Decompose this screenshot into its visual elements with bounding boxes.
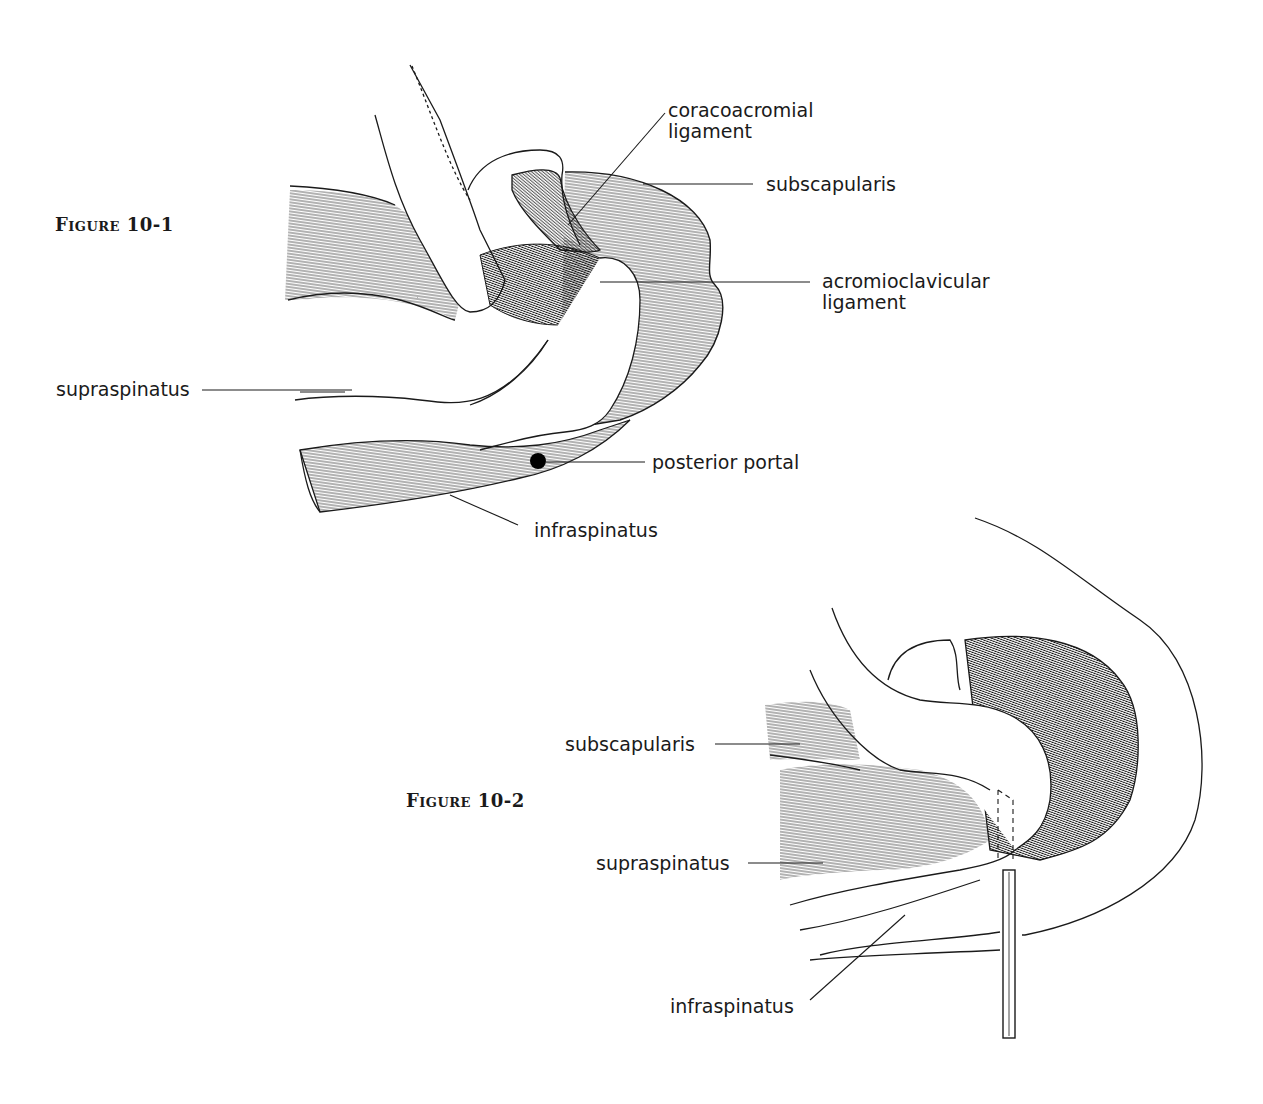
anatomy-illustrations — [0, 0, 1263, 1104]
label-supraspinatus-fig2: supraspinatus — [596, 853, 730, 874]
figure-10-2-title: Figure 10-2 — [406, 790, 525, 811]
label-subscapularis-fig1: subscapularis — [766, 174, 896, 195]
label-infraspinatus-fig2: infraspinatus — [670, 996, 794, 1017]
label-posterior-portal: posterior portal — [652, 452, 799, 473]
posterior-portal-dot — [530, 453, 546, 469]
label-acromioclavicular-ligament: acromioclavicular ligament — [822, 271, 990, 313]
figure-10-2-drawing — [715, 518, 1202, 1038]
label-supraspinatus-fig1: supraspinatus — [56, 379, 190, 400]
label-infraspinatus-fig1: infraspinatus — [534, 520, 658, 541]
figure-10-1-title: Figure 10-1 — [55, 214, 174, 235]
label-subscapularis-fig2: subscapularis — [565, 734, 695, 755]
label-coracoacromial-ligament: coracoacromial ligament — [668, 100, 813, 142]
